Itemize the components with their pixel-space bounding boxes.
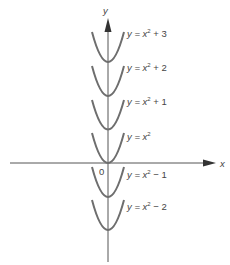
eq-label-6: y = x2 − 2: [126, 201, 167, 212]
svg-text:y = x2 + 2: y = x2 + 2: [126, 62, 167, 73]
y-axis-label: y: [102, 5, 109, 16]
eq-label-3: y = x2 + 1: [126, 96, 167, 107]
parabola-family-plot: y x 0 y = x2 + 3 y = x2 + 2 y = x2 + 1 y…: [0, 0, 230, 265]
eq-label-4: y = x2: [126, 131, 151, 142]
eq-label-2: y = x2 + 2: [126, 62, 167, 73]
svg-text:y = x2: y = x2: [126, 131, 151, 142]
x-axis-label: x: [219, 158, 226, 169]
svg-text:y = x2 + 1: y = x2 + 1: [126, 96, 167, 107]
eq-label-1: y = x2 + 3: [126, 28, 167, 39]
svg-text:y = x2 + 3: y = x2 + 3: [126, 28, 167, 39]
svg-text:y = x2 − 1: y = x2 − 1: [126, 169, 167, 180]
svg-text:y = x2 − 2: y = x2 − 2: [126, 201, 167, 212]
y-axis-arrow-icon: [105, 18, 112, 32]
x-axis-arrow-icon: [203, 160, 216, 167]
eq-label-5: y = x2 − 1: [126, 169, 167, 180]
origin-label: 0: [99, 166, 104, 177]
